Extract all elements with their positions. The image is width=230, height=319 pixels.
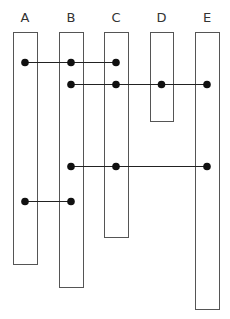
node-dot-c	[112, 59, 120, 67]
lane-d: D	[151, 10, 174, 122]
node-dot-b	[67, 59, 75, 67]
lane-label: E	[203, 10, 211, 25]
lane-box	[196, 33, 220, 310]
lanes: ABCDE	[14, 10, 220, 310]
lane-label: B	[67, 10, 76, 25]
node-dot-a	[21, 59, 29, 67]
lane-box	[151, 33, 174, 122]
lane-c: C	[105, 10, 129, 238]
lane-label: D	[156, 10, 166, 25]
node-dot-b	[67, 198, 75, 206]
lane-box	[60, 33, 84, 288]
node-dot-b	[67, 81, 75, 89]
node-dot-d	[158, 81, 166, 89]
node-dot-e	[203, 81, 211, 89]
lane-e: E	[196, 10, 220, 310]
node-dot-a	[21, 198, 29, 206]
lane-label: C	[111, 10, 120, 25]
node-dot-e	[203, 163, 211, 171]
connection	[67, 163, 211, 171]
node-dot-c	[112, 81, 120, 89]
lane-b: B	[60, 10, 84, 288]
node-dot-b	[67, 163, 75, 171]
lane-box	[14, 33, 38, 265]
lane-label: A	[21, 10, 30, 25]
node-dot-c	[112, 163, 120, 171]
lane-diagram: ABCDE	[0, 0, 230, 319]
lane-a: A	[14, 10, 38, 265]
connection	[67, 81, 211, 89]
